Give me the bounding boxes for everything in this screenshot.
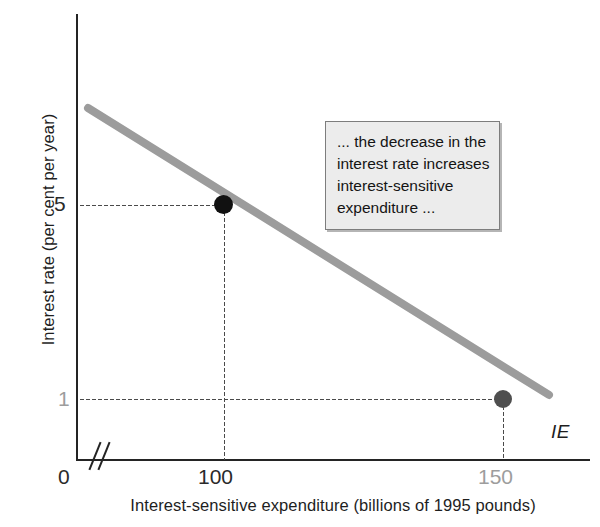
data-point-100-5 bbox=[214, 195, 233, 214]
y-tick-label-1: 1 bbox=[58, 388, 70, 409]
x-axis-line bbox=[76, 459, 590, 461]
interest-sensitive-expenditure-chart: IE 5 1 0 100 150 Interest rate (per cent… bbox=[0, 0, 600, 527]
guide-line-exp-100 bbox=[223, 205, 226, 460]
ie-curve-label: IE bbox=[551, 421, 570, 443]
annotation-callout: ... the decrease in the interest rate in… bbox=[325, 121, 500, 230]
data-point-150-1 bbox=[494, 390, 512, 408]
x-tick-label-100: 100 bbox=[198, 466, 233, 487]
axis-break-icon bbox=[88, 441, 118, 475]
x-tick-label-0: 0 bbox=[58, 466, 70, 487]
y-axis-title: Interest rate (per cent per year) bbox=[39, 65, 58, 395]
guide-line-exp-150 bbox=[502, 399, 505, 460]
x-tick-label-150: 150 bbox=[478, 466, 513, 487]
x-axis-title: Interest-sensitive expenditure (billions… bbox=[76, 496, 590, 515]
annotation-callout-text: ... the decrease in the interest rate in… bbox=[337, 131, 490, 219]
y-axis-line bbox=[76, 14, 78, 461]
guide-line-rate-5 bbox=[79, 204, 225, 207]
guide-line-rate-1 bbox=[79, 398, 504, 401]
